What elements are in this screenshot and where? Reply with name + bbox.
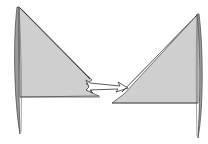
right-arrow-icon xyxy=(86,80,128,93)
fold-diagram xyxy=(0,0,208,144)
right-flag-shape xyxy=(112,14,202,138)
diagram-canvas xyxy=(0,0,208,144)
left-flag-fill xyxy=(19,7,99,97)
left-flag-shape xyxy=(15,7,100,134)
